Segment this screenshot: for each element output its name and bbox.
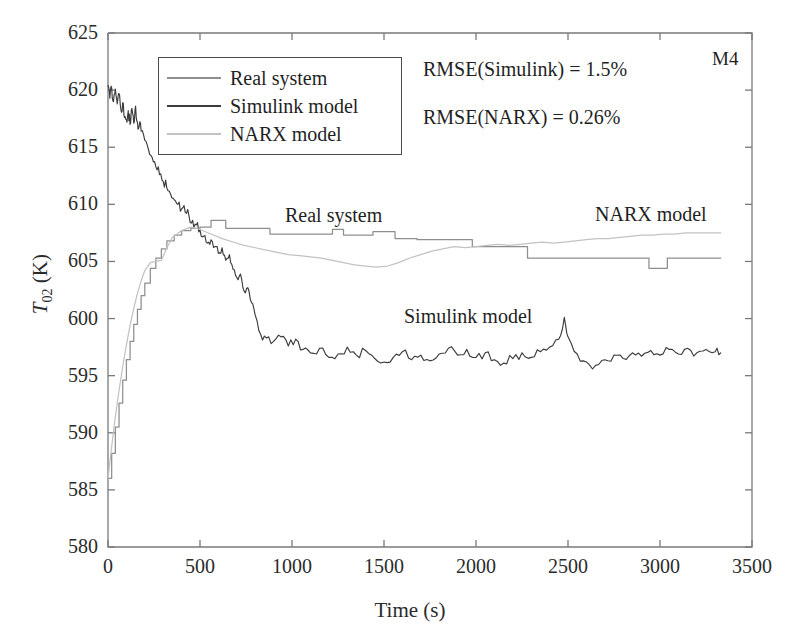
legend-entry-real-system: Real system [167, 64, 393, 92]
series-line-real-system [108, 220, 721, 478]
y-tick-label: 590 [42, 421, 98, 444]
y-axis-title-subscript: 02 [40, 288, 55, 302]
x-tick-label: 2000 [441, 555, 511, 578]
x-tick-label: 500 [165, 555, 235, 578]
y-tick-label: 620 [42, 78, 98, 101]
curve-label-narx-model: NARX model [595, 203, 707, 226]
x-axis-title: Time (s) [290, 598, 530, 623]
legend-entry-narx-model: NARX model [167, 120, 393, 148]
y-axis-title-unit: (K) [28, 254, 52, 288]
x-tick-label: 1500 [349, 555, 419, 578]
x-tick-label: 0 [73, 555, 143, 578]
y-axis-title-symbol: T [28, 302, 52, 314]
y-tick-label: 615 [42, 135, 98, 158]
y-tick-label: 625 [42, 21, 98, 44]
legend-swatch-real-system [167, 77, 221, 79]
legend-swatch-simulink-model [167, 105, 221, 107]
curve-label-real-system: Real system [285, 204, 382, 227]
annotation-rmse-simulink: RMSE(Simulink) = 1.5% [423, 58, 627, 81]
annotation-rmse-narx: RMSE(NARX) = 0.26% [423, 106, 620, 129]
curve-label-simulink-model: Simulink model [404, 305, 532, 328]
annotation-corner-tag: M4 [712, 48, 738, 70]
series-line-narx-model [108, 227, 721, 478]
y-axis-title: T02 (K) [28, 214, 56, 354]
legend-swatch-narx-model [167, 133, 221, 135]
figure-container: 580585590595600605610615620625 050010001… [0, 0, 808, 643]
x-tick-label: 1000 [257, 555, 327, 578]
legend-label-real-system: Real system [230, 68, 327, 88]
legend-label-simulink-model: Simulink model [230, 96, 358, 116]
legend-label-narx-model: NARX model [230, 124, 342, 144]
y-tick-label: 610 [42, 192, 98, 215]
y-tick-label: 595 [42, 364, 98, 387]
x-tick-label: 3000 [625, 555, 695, 578]
legend-entry-simulink-model: Simulink model [167, 92, 393, 120]
x-tick-label: 3500 [717, 555, 787, 578]
legend: Real system Simulink model NARX model [158, 57, 402, 155]
y-tick-label: 585 [42, 478, 98, 501]
x-tick-label: 2500 [533, 555, 603, 578]
